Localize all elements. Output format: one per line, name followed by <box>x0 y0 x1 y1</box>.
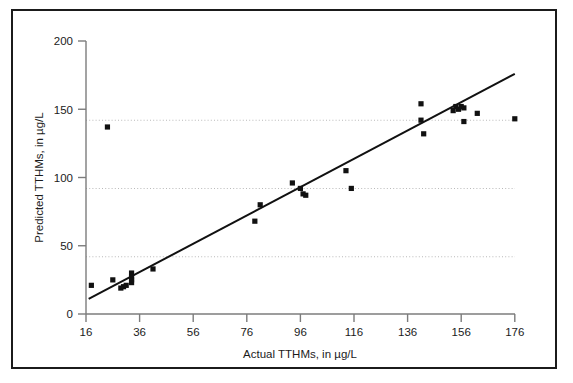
data-point <box>303 193 308 198</box>
ytick-label-200: 200 <box>54 35 73 47</box>
axis-lines <box>86 41 515 314</box>
data-point <box>418 101 423 106</box>
data-point <box>418 118 423 123</box>
data-point <box>349 186 354 191</box>
data-point <box>124 283 129 288</box>
data-point <box>89 283 94 288</box>
xtick-label-176: 176 <box>505 326 524 338</box>
xtick-label-76: 76 <box>240 326 253 338</box>
ytick-label-100: 100 <box>54 172 73 184</box>
data-point <box>129 280 134 285</box>
data-point <box>461 105 466 110</box>
data-point <box>258 202 263 207</box>
data-point <box>343 168 348 173</box>
xtick-label-16: 16 <box>80 326 93 338</box>
data-point <box>290 180 295 185</box>
data-point <box>252 219 257 224</box>
y-axis-label: Predicted TTHMs, in µg/L <box>33 112 45 243</box>
y-axis-tick-labels: 200 150 100 50 0 <box>54 35 73 320</box>
data-point-markers <box>89 101 518 290</box>
xtick-label-136: 136 <box>398 326 417 338</box>
x-axis-ticks <box>86 314 515 322</box>
data-point <box>421 131 426 136</box>
ytick-label-50: 50 <box>60 240 73 252</box>
data-point <box>461 119 466 124</box>
xtick-label-156: 156 <box>452 326 471 338</box>
figure-border: 200 150 100 50 0 16 36 56 76 96 116 136 … <box>11 9 557 369</box>
x-axis-label: Actual TTHMs, in µg/L <box>243 348 357 360</box>
xtick-label-56: 56 <box>187 326 200 338</box>
data-point <box>105 124 110 129</box>
ytick-label-150: 150 <box>54 104 73 116</box>
data-point <box>475 111 480 116</box>
xtick-label-36: 36 <box>133 326 146 338</box>
xtick-label-96: 96 <box>294 326 307 338</box>
data-point <box>110 277 115 282</box>
data-point <box>512 116 517 121</box>
y-axis-ticks <box>78 41 86 314</box>
figure: 200 150 100 50 0 16 36 56 76 96 116 136 … <box>0 0 573 383</box>
scatter-plot: 200 150 100 50 0 16 36 56 76 96 116 136 … <box>13 11 555 367</box>
data-point <box>150 266 155 271</box>
xtick-label-116: 116 <box>345 326 363 338</box>
ytick-label-0: 0 <box>67 308 73 320</box>
x-axis-tick-labels: 16 36 56 76 96 116 136 156 176 <box>80 326 525 338</box>
data-point <box>298 186 303 191</box>
